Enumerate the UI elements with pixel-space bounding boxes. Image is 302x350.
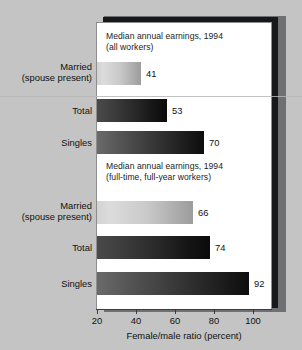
x-axis-line [96,309,272,310]
cat-label-b-married-line1: Married [0,200,92,211]
section-a-title-line2: (all workers) [106,42,223,53]
x-axis-tick-20 [97,309,98,314]
chart-panel: Median annual earnings, 1994 (all worker… [96,22,272,310]
cat-label-a-married-line1: Married [0,61,92,72]
cat-label-a-singles: Singles [0,137,92,148]
x-axis-tick-label-40: 40 [131,315,141,326]
section-b-title: Median annual earnings, 1994 (full-time,… [106,161,223,182]
cat-label-b-married-line2: (spouse present) [0,211,92,222]
section-b-title-line1: Median annual earnings, 1994 [106,161,223,172]
section-b-title-line2: (full-time, full-year workers) [106,172,223,183]
x-axis-title: Female/male ratio (percent) [96,330,272,341]
x-axis-tick-label-80: 80 [209,315,219,326]
cat-label-b-total-line1: Total [0,242,92,253]
cat-label-a-married: Married (spouse present) [0,61,92,83]
cat-label-a-singles-line1: Singles [0,137,92,148]
cat-label-a-total-line1: Total [0,105,92,116]
x-axis-tick-60 [175,309,176,314]
section-a-title-line1: Median annual earnings, 1994 [106,31,223,42]
section-a-title: Median annual earnings, 1994 (all worker… [106,31,223,52]
x-axis-tick-80 [214,309,215,314]
cat-label-b-married: Married (spouse present) [0,200,92,222]
cat-label-a-married-line2: (spouse present) [0,72,92,83]
x-axis-tick-label-100: 100 [245,315,261,326]
x-axis-tick-label-60: 60 [170,315,180,326]
cat-label-b-singles-line1: Singles [0,278,92,289]
x-axis-tick-40 [136,309,137,314]
x-axis-tick-label-20: 20 [92,315,102,326]
cat-label-b-singles: Singles [0,278,92,289]
cat-label-b-total: Total [0,242,92,253]
cat-label-a-total: Total [0,105,92,116]
x-axis-tick-100 [253,309,254,314]
